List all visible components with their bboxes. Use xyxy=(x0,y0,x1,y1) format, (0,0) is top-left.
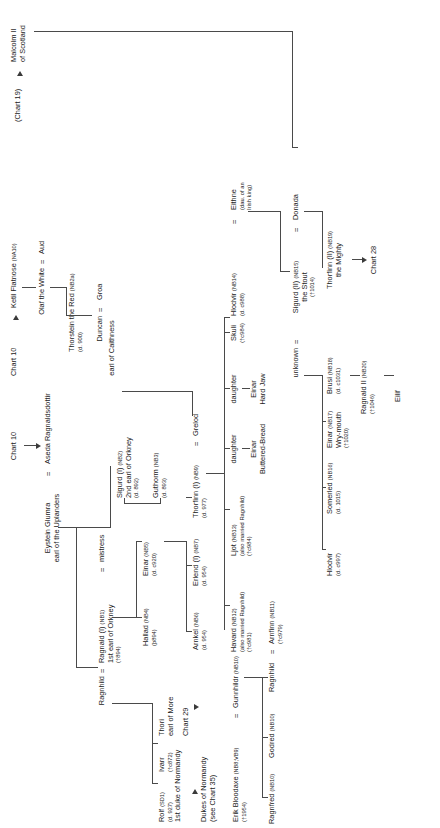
person-ljot-code: (NB13) xyxy=(231,524,237,542)
dukes-of-normandy-ref: Dukes of Normandy (see Chart 35) xyxy=(200,732,217,822)
marriage-symbol-unknown-sigurd2: = xyxy=(292,340,301,344)
connector-sigurd2-children-bar xyxy=(322,375,323,550)
connector-ragnhild-ragnald-stem xyxy=(112,703,152,704)
marriage-symbol-hlodvir-eithne: = xyxy=(230,220,239,224)
marriage-symbol-ragnald-mistress: = xyxy=(98,568,107,572)
person-thorstein-given: Thorstein the Red xyxy=(67,293,76,352)
person-ragnfred-name: Ragnfred (NB10) xyxy=(268,762,277,824)
person-ragnfred-code: (NB10) xyxy=(269,774,275,792)
person-aud-name: Aud xyxy=(38,214,47,254)
person-somerled-code: (NB16) xyxy=(327,463,333,481)
connector-erik-children-stem xyxy=(244,677,262,678)
connector-rolf-drop xyxy=(152,783,158,784)
person-duncan-name: Duncan xyxy=(96,316,105,382)
person-thorfinn-1-dates: (d. 977) xyxy=(201,438,208,518)
person-hallad-name: Hallad (NB4) xyxy=(142,570,151,646)
connector-einar-children-bar xyxy=(186,541,187,632)
person-einar-nb5: Einar (NB5) (d. c920) xyxy=(142,500,158,576)
person-havard-dates: (†c981) xyxy=(246,556,253,652)
marriage-symbol-eystein-aseda: = xyxy=(44,472,53,476)
person-thorfinn-1: Thorfinn (I) (NB9) (d. 977) xyxy=(192,438,208,518)
connector-sigurd2-drop xyxy=(280,271,290,272)
marriage-symbol-thorfinn1-grelod: = xyxy=(192,442,201,446)
person-ljot-given: Ljot xyxy=(229,544,238,556)
person-daughter-1: daughter xyxy=(230,422,239,476)
person-godred-name: Godred (NB10) xyxy=(268,696,277,758)
marriage-symbol-duncan-groa: = xyxy=(96,308,105,312)
person-thorfinn-2-given: Thorfinn (II) xyxy=(325,251,334,289)
person-guthorm-name: Guthorm (NB3) xyxy=(152,402,161,498)
connector-donada-drop xyxy=(292,147,298,148)
person-einar-wry-code: (NB17) xyxy=(327,411,333,429)
person-malcolm-ii-title: of Scotland xyxy=(19,6,28,62)
person-arnkel-name: Arnkel (NB6) xyxy=(192,580,201,650)
person-brusi-given: Brusi xyxy=(325,377,334,394)
person-eithne: Eithne (dau. of an Irish king) xyxy=(230,148,252,210)
person-aseda: Aseda Ragnaldsdottir xyxy=(44,352,53,464)
person-rolf-title: 1st duke of Normandy xyxy=(174,746,183,822)
person-brusi: Brusi (NB18) (d. c1031) xyxy=(326,320,342,394)
person-arnkel-dates: (d. 954) xyxy=(201,580,208,650)
person-ragnald-2-name: Ragnald II (NB20) xyxy=(360,332,369,414)
person-brusi-code: (NB18) xyxy=(327,357,333,375)
person-godred-code: (NB10) xyxy=(269,714,275,732)
person-sigurd-1-given: Sigurd (I) xyxy=(115,468,124,498)
person-sigurd-1-dates: (d. 892) xyxy=(133,402,140,498)
connector-gen2-right-bar xyxy=(110,466,111,528)
arrow-right-chart19 xyxy=(17,71,23,76)
connector-einar-descent xyxy=(164,541,186,542)
person-einar-buttered-bread: Einar Buttered-Bread xyxy=(250,422,267,476)
person-einar-hj-title: Hard Jaw xyxy=(259,362,268,416)
person-arnkel: Arnkel (NB6) (d. 954) xyxy=(192,580,208,650)
person-hlodvir-nb14-given: Hlodvir xyxy=(229,293,238,316)
person-donada: Donada xyxy=(292,166,301,220)
person-ragnald-1: Ragnald (I) (NB1) 1st earl of Orkney (†8… xyxy=(98,563,122,663)
person-einar-nb5-code: (NB5) xyxy=(143,542,149,557)
person-somerled-given: Somerled xyxy=(325,482,334,514)
connector-ragnhild2-drop xyxy=(262,677,268,678)
person-arnkel-code: (NB6) xyxy=(193,612,199,627)
person-malcolm-ii: Malcolm II of Scotland xyxy=(10,6,27,62)
person-einar-wry-given: Einar xyxy=(325,431,334,448)
connector-ljot-drop xyxy=(224,509,230,510)
person-einar-wry-dates: (†1020) xyxy=(343,374,350,448)
person-guthorm-given: Guthorm xyxy=(151,469,160,498)
person-rolf: Rolf (SD1) (d. 927) 1st duke of Normandy xyxy=(158,746,182,822)
connector-brusi-to-ragnald2 xyxy=(350,375,360,376)
person-grelod: Grelod xyxy=(192,376,201,436)
person-eithne-note-2: Irish king) xyxy=(246,148,253,210)
person-hlodvir-c997: Hlodvir (d. c997) xyxy=(326,514,342,576)
person-rolf-given: Rolf xyxy=(157,809,166,822)
person-hlodvir-c997-name: Hlodvir xyxy=(326,514,335,576)
person-hallad-code: (NB4) xyxy=(143,608,149,623)
person-erik-bloodaxe-name: Erik Bloodaxe (NB8;VB9) xyxy=(232,712,241,822)
marriage-symbol-sigurd2-donada: = xyxy=(292,228,301,232)
person-sigurd-2-code: (NB15) xyxy=(293,261,299,279)
connector-thorfinn2-stem xyxy=(304,211,322,212)
connector-sigurd2-children-stem xyxy=(304,375,322,376)
person-hlodvir-nb14-code: (NB14) xyxy=(231,273,237,291)
person-thorstein-dates: (d. 900) xyxy=(77,242,84,352)
person-thorfinn-1-given: Thorfinn (I) xyxy=(191,482,200,518)
person-eystein: Eystein Glumra earl of the Uplanders xyxy=(44,480,61,576)
person-eilif: Eilif xyxy=(394,348,403,402)
person-hallad-dates: (þ894) xyxy=(151,570,158,646)
arrow-down-chart29 xyxy=(194,704,199,710)
person-gunnhildr-code: (NB10) xyxy=(233,656,239,674)
person-havard-note: (also married Ragnhild) xyxy=(239,556,246,652)
connector-to-ragnald xyxy=(76,667,98,668)
connector-ketil-stem xyxy=(22,287,36,288)
marriage-symbol-olaf-aud: = xyxy=(38,260,47,264)
person-ragnfred-given: Ragnfred xyxy=(267,794,276,824)
person-ketil-code: (NA10) xyxy=(11,243,17,261)
person-ragnfred: Ragnfred (NB10) xyxy=(268,762,277,824)
marriage-symbol-ragnhild-arnfinn: = xyxy=(268,650,277,654)
person-eithne-note-1: (dau. of an xyxy=(239,148,246,210)
person-erlend-1-given: Erlend (I) xyxy=(191,556,200,586)
person-arnfinn-name: Arnfinn (NB11) xyxy=(268,560,277,644)
person-ragnald-1-dates: (†894) xyxy=(115,563,122,663)
person-godred: Godred (NB10) xyxy=(268,696,277,758)
person-rolf-name: Rolf (SD1) xyxy=(158,746,167,822)
person-thorfinn-2: Thorfinn (II) (NB19) the Mighty xyxy=(326,212,343,308)
person-einar-nb5-dates: (d. c920) xyxy=(151,500,158,576)
